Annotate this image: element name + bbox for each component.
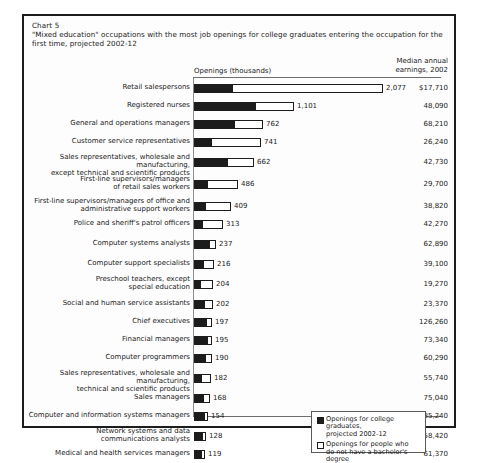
bar-segment-no-bachelors (235, 120, 263, 129)
bar-segment-college-graduates (194, 138, 212, 147)
stacked-bar (194, 336, 212, 345)
bar-segment-no-bachelors (205, 300, 213, 309)
bar-value-label: 204 (216, 280, 229, 289)
bar-value-label: 197 (215, 318, 228, 327)
bar-segment-no-bachelors (203, 432, 206, 441)
median-earnings-value: 126,260 (364, 318, 448, 327)
bar-segment-college-graduates (194, 220, 203, 229)
median-earnings-value: 29,700 (364, 180, 448, 189)
bar-segment-no-bachelors (212, 138, 261, 147)
bar-value-label: 741 (264, 138, 277, 147)
stacked-bar (194, 84, 383, 93)
row-label: General and operations managers (28, 120, 190, 128)
median-earnings-value: 55,740 (364, 374, 448, 383)
bar-value-label: 190 (215, 354, 228, 363)
bar-value-label: 486 (241, 180, 254, 189)
bar-segment-no-bachelors (202, 450, 205, 459)
bar-segment-college-graduates (194, 84, 233, 93)
row-label: Sales representatives, wholesale and man… (28, 370, 190, 393)
legend-box: Openings for college graduates, projecte… (311, 411, 426, 453)
bar-segment-no-bachelors (228, 158, 254, 167)
chart-header: Chart 5 "Mixed education" occupations wi… (24, 16, 454, 48)
stacked-bar (194, 102, 294, 111)
row-label: Retail salespersons (28, 84, 190, 92)
row-label: Preschool teachers, except special educa… (28, 276, 190, 292)
bar-value-label: 662 (257, 158, 270, 167)
bar-segment-no-bachelors (208, 180, 238, 189)
bar-segment-college-graduates (194, 120, 235, 129)
bar-segment-no-bachelors (207, 318, 212, 327)
chart-row: Computer support specialists21639,100 (24, 260, 454, 269)
bar-segment-no-bachelors (206, 202, 231, 211)
chart-row: Customer service representatives74126,24… (24, 138, 454, 147)
chart-row: First-line supervisors/managers of offic… (24, 202, 454, 211)
stacked-bar (194, 432, 206, 441)
bar-segment-college-graduates (194, 202, 206, 211)
stacked-bar (194, 318, 212, 327)
row-label: Computer systems analysts (28, 240, 190, 248)
stacked-bar (194, 220, 223, 229)
chart-row: Retail salespersons2,077$17,710 (24, 84, 454, 93)
legend-item: Openings for college graduates, projecte… (317, 416, 421, 438)
bar-value-label: 237 (219, 240, 232, 249)
bar-segment-no-bachelors (203, 220, 223, 229)
bar-segment-college-graduates (194, 318, 207, 327)
median-earnings-value: 38,820 (364, 202, 448, 211)
stacked-bar (194, 138, 261, 147)
row-label: Sales managers (28, 394, 190, 402)
bar-segment-no-bachelors (208, 336, 212, 345)
median-earnings-value: 26,240 (364, 138, 448, 147)
chart-row: Sales representatives, wholesale and man… (24, 374, 454, 383)
stacked-bar (194, 120, 263, 129)
bar-value-label: 119 (208, 450, 221, 459)
legend-label: Openings for college graduates, projecte… (326, 416, 421, 438)
chart-row: Computer systems analysts23762,890 (24, 240, 454, 249)
row-label: Computer and information systems manager… (28, 412, 190, 420)
stacked-bar (194, 394, 210, 403)
row-label: Computer programmers (28, 354, 190, 362)
bar-segment-college-graduates (194, 354, 206, 363)
chart-row: Sales managers16875,040 (24, 394, 454, 403)
row-label: Computer support specialists (28, 260, 190, 268)
row-label: Chief executives (28, 318, 190, 326)
chart-row: Sales representatives, wholesale and man… (24, 158, 454, 167)
chart-row: Registered nurses1,10148,090 (24, 102, 454, 111)
bar-segment-no-bachelors (206, 354, 212, 363)
median-earnings-value: 73,340 (364, 336, 448, 345)
bar-value-label: 202 (216, 300, 229, 309)
stacked-bar (194, 180, 238, 189)
bar-segment-no-bachelors (205, 412, 208, 421)
chart-row: First-line supervisors/managers of retai… (24, 180, 454, 189)
bar-value-label: 216 (217, 260, 230, 269)
plot-area: Retail salespersons2,077$17,710Registere… (24, 78, 454, 420)
median-earnings-value: 42,730 (364, 158, 448, 167)
bar-segment-college-graduates (194, 336, 208, 345)
bar-value-label: 128 (209, 432, 222, 441)
chart-title: "Mixed education" occupations with the m… (32, 30, 446, 48)
bar-value-label: 182 (214, 374, 227, 383)
median-earnings-value: $17,710 (364, 84, 448, 93)
row-label: First-line supervisors/managers of offic… (28, 198, 190, 214)
bar-segment-no-bachelors (204, 260, 214, 269)
chart-row: Preschool teachers, except special educa… (24, 280, 454, 289)
row-label: Medical and health services managers (28, 450, 190, 458)
median-earnings-value: 23,370 (364, 300, 448, 309)
legend-swatch-no-bachelors-icon (317, 442, 324, 449)
legend-label: Openings for people who do not have a ba… (326, 441, 421, 463)
bar-value-label: 195 (215, 336, 228, 345)
bar-segment-no-bachelors (233, 84, 383, 93)
stacked-bar (194, 354, 212, 363)
bar-segment-college-graduates (194, 158, 228, 167)
chart-frame: Chart 5 "Mixed education" occupations wi… (22, 14, 456, 428)
earnings-column-header: Median annual earnings, 2002 (364, 57, 448, 74)
row-label: Registered nurses (28, 102, 190, 110)
median-earnings-value: 68,210 (364, 120, 448, 129)
stacked-bar (194, 260, 214, 269)
median-earnings-value: 60,290 (364, 354, 448, 363)
row-label: Social and human service assistants (28, 300, 190, 308)
chart-row: Computer programmers19060,290 (24, 354, 454, 363)
stacked-bar (194, 450, 205, 459)
bar-segment-no-bachelors (201, 280, 213, 289)
bar-segment-college-graduates (194, 450, 202, 459)
bar-segment-no-bachelors (202, 374, 211, 383)
